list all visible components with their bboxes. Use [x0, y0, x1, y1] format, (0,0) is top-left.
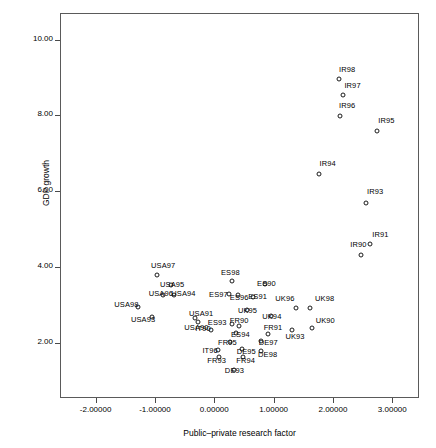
data-point[interactable]	[230, 279, 235, 284]
data-point-label: IR98	[339, 65, 355, 74]
data-point-label: USA97	[151, 260, 175, 269]
data-point-label: IT96	[202, 346, 217, 355]
chart-title	[0, 0, 436, 5]
data-point-label: IR96	[339, 100, 355, 109]
data-point-label: IR90	[350, 240, 366, 249]
data-point[interactable]	[336, 77, 341, 82]
data-point-label: ES90	[257, 278, 276, 287]
x-tick-label: 0.00000	[200, 405, 229, 414]
y-tick-label: 10.00	[33, 34, 53, 43]
data-point-label: USA98	[114, 300, 138, 309]
data-point[interactable]	[266, 331, 271, 336]
x-tick-label: -1.00000	[139, 405, 171, 414]
data-point-label: USA96	[149, 289, 173, 298]
data-point-label: USA95	[160, 279, 184, 288]
data-point-label: USA93	[131, 315, 155, 324]
y-tick: 8.00	[0, 115, 60, 116]
data-point-label: DE97	[259, 337, 278, 346]
data-point[interactable]	[374, 129, 379, 134]
x-tick-label: 1.00000	[259, 405, 288, 414]
x-tick-mark	[155, 398, 156, 403]
y-tick-label: 6.00	[37, 185, 53, 194]
data-point-label: ES98	[221, 267, 240, 276]
data-point-label: IR91	[372, 229, 388, 238]
x-axis-label: Public–private research factor	[60, 428, 419, 438]
data-point-label: IR93	[367, 187, 383, 196]
scatter-chart: GDP growth Public–private research facto…	[0, 0, 436, 448]
data-point-label: UK90	[316, 316, 335, 325]
y-tick-mark	[55, 191, 60, 192]
y-tick: 2.00	[0, 343, 60, 344]
y-tick: 6.00	[0, 191, 60, 192]
data-point[interactable]	[293, 305, 298, 310]
data-point[interactable]	[316, 172, 321, 177]
data-point-label: ES96	[230, 292, 249, 301]
data-point-label: ES91	[248, 291, 267, 300]
data-point[interactable]	[341, 93, 346, 98]
data-point[interactable]	[368, 242, 373, 247]
data-point-label: USA94	[171, 289, 195, 298]
data-point-label: UK95	[238, 305, 257, 314]
data-point-label: DE95	[237, 346, 256, 355]
data-point-label: DE98	[258, 349, 277, 358]
data-point-label: FR94	[236, 355, 255, 364]
data-point-label: ES97	[209, 289, 228, 298]
x-tick-mark	[214, 398, 215, 403]
plot-area	[60, 13, 419, 398]
data-point-label: FR91	[264, 323, 283, 332]
y-tick-label: 4.00	[37, 261, 53, 270]
data-point-label: IR94	[319, 158, 335, 167]
data-point-label: UK93	[285, 331, 304, 340]
x-tick-mark	[274, 398, 275, 403]
data-point-label: USA91	[189, 308, 213, 317]
y-tick-mark	[55, 115, 60, 116]
data-point[interactable]	[155, 273, 160, 278]
x-tick-label: -2.00000	[80, 405, 112, 414]
y-tick-mark	[55, 343, 60, 344]
x-tick-mark	[333, 398, 334, 403]
x-tick-label: 3.00000	[378, 405, 407, 414]
data-point-label: IR97	[344, 80, 360, 89]
x-tick-label: 2.00000	[318, 405, 347, 414]
data-point-label: FR93	[207, 355, 226, 364]
x-tick-mark	[96, 398, 97, 403]
y-tick-label: 2.00	[37, 337, 53, 346]
data-point-label: IT90	[195, 323, 210, 332]
y-tick-mark	[55, 267, 60, 268]
y-tick: 10.00	[0, 40, 60, 41]
data-point-label: IR95	[378, 115, 394, 124]
data-point-label: DE93	[225, 366, 244, 375]
data-point[interactable]	[338, 114, 343, 119]
data-point-label: UK94	[262, 312, 281, 321]
data-point[interactable]	[309, 325, 314, 330]
data-point-label: UK98	[315, 294, 334, 303]
y-tick-mark	[55, 40, 60, 41]
data-point[interactable]	[363, 200, 368, 205]
x-tick-mark	[392, 398, 393, 403]
y-tick-label: 8.00	[37, 109, 53, 118]
y-tick: 4.00	[0, 267, 60, 268]
y-axis-label: GDP growth	[41, 123, 51, 243]
data-point-label: UK96	[275, 293, 294, 302]
data-point[interactable]	[359, 252, 364, 257]
data-point[interactable]	[308, 305, 313, 310]
data-point-label: FR90	[230, 316, 249, 325]
data-point-label: FR95	[218, 338, 237, 347]
